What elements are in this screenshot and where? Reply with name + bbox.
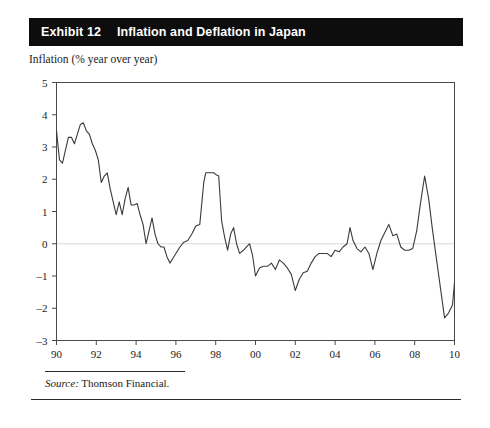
source-note: Source: Thomson Financial. [45,377,169,389]
source-label: Source: [45,377,79,389]
y-axis-tick-label: –2 [36,302,48,314]
x-axis-tick-label: 92 [91,348,102,360]
x-axis-tick-label: 10 [449,348,461,360]
figure-bottom-rule [31,399,461,400]
y-axis-tick-label: –3 [36,335,49,347]
plot-frame-border [57,83,455,341]
exhibit-figure: Exhibit 12 Inflation and Deflation in Ja… [0,0,490,428]
chart-plot-area: 543210–1–2–3 9092949698000204060810 [0,66,490,362]
x-axis-tick-label: 08 [409,348,421,360]
series-line-japan-inflation [57,123,455,318]
exhibit-header-bar: Exhibit 12 Inflation and Deflation in Ja… [29,18,463,46]
y-axis-tick-label: 3 [42,141,48,153]
y-axis-caption: Inflation (% year over year) [29,53,157,65]
y-axis-tick-label: 2 [42,173,48,185]
x-axis-tick-label: 94 [131,348,143,360]
y-axis-tick-label: –1 [36,270,48,282]
exhibit-title: Inflation and Deflation in Japan [117,25,306,39]
x-axis-tick-label: 90 [51,348,63,360]
source-value: Thomson Financial. [79,377,170,389]
y-axis-tick-group: 543210–1–2–3 [36,77,57,347]
y-axis-tick-label: 1 [42,206,48,218]
y-axis-tick-label: 5 [42,77,48,89]
source-divider-top [45,371,185,372]
x-axis-tick-label: 98 [210,348,222,360]
x-axis-tick-label: 06 [369,348,381,360]
y-axis-tick-label: 0 [42,238,48,250]
x-axis-tick-group: 9092949698000204060810 [51,341,461,360]
inflation-line-chart: 543210–1–2–3 9092949698000204060810 [0,66,490,362]
x-axis-tick-label: 96 [170,348,182,360]
exhibit-number: Exhibit 12 [41,25,101,39]
y-axis-tick-label: 4 [42,109,48,121]
x-axis-tick-label: 00 [250,348,262,360]
x-axis-tick-label: 02 [290,348,301,360]
x-axis-tick-label: 04 [330,348,342,360]
